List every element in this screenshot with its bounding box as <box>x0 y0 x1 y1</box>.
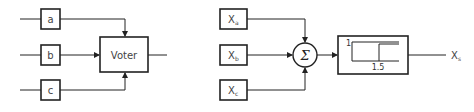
input-label-a: a <box>47 14 53 25</box>
summer-diagram: X a X b X c Σ <box>220 9 461 100</box>
input-label-c: c <box>48 85 54 96</box>
input-box-xb: X b <box>220 45 247 65</box>
summer-junction: Σ <box>293 43 317 67</box>
output-subscript: s <box>458 55 461 62</box>
input-label-xb: X <box>228 50 235 61</box>
input-box-a: a <box>41 9 60 29</box>
input-label-xa: X <box>228 14 235 25</box>
input-label-b: b <box>47 50 53 61</box>
voter-label: Voter <box>111 50 138 61</box>
input-subscript-xc: c <box>235 90 238 97</box>
input-box-b: b <box>41 45 60 65</box>
arrow-a-to-voter <box>60 19 125 36</box>
voter-block: Voter <box>100 37 148 72</box>
input-subscript-xa: a <box>235 19 239 26</box>
output-label: X s <box>451 50 461 63</box>
voter-diagram: a b c Voter <box>20 9 167 100</box>
arrow-c-to-voter <box>60 73 125 90</box>
diagram-canvas: a b c Voter X a X b <box>0 0 474 112</box>
arrow-xc-to-summer <box>247 68 305 90</box>
sigma-icon: Σ <box>299 48 310 63</box>
input-box-c: c <box>41 80 60 100</box>
input-box-xa: X a <box>220 9 247 29</box>
threshold-high-label: 1 <box>346 39 351 48</box>
input-label-xc: X <box>228 85 235 96</box>
svg-text:X: X <box>451 50 458 61</box>
input-subscript-xb: b <box>235 55 239 62</box>
threshold-value-label: 1.5 <box>372 63 385 72</box>
input-box-xc: X c <box>220 80 247 100</box>
threshold-block: 1 1.5 <box>338 36 408 74</box>
arrow-xa-to-summer <box>247 19 305 42</box>
